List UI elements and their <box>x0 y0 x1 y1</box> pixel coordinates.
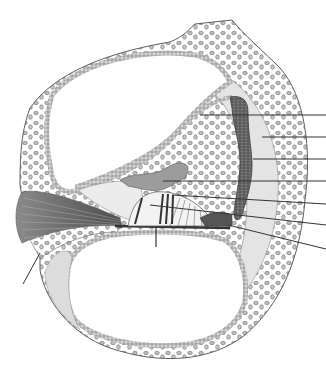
leader-line-8 <box>23 253 40 284</box>
cochlea-diagram <box>0 0 326 383</box>
scala-tympani <box>67 232 246 346</box>
cochlea-cross-section-figure <box>0 0 326 383</box>
